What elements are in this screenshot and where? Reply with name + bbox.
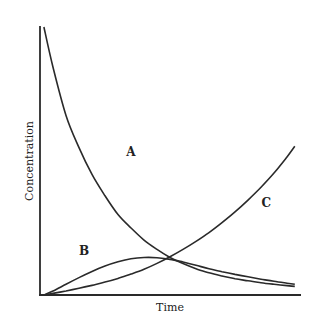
series-line-b [44,257,295,295]
x-axis-label: Time [156,301,184,314]
series-line-c [44,146,295,295]
chart: ABC Time Concentration [0,0,319,321]
series-label-b: B [79,244,89,258]
series-label-a: A [125,145,136,159]
y-axis-label: Concentration [23,121,36,201]
series-label-c: C [261,196,271,210]
